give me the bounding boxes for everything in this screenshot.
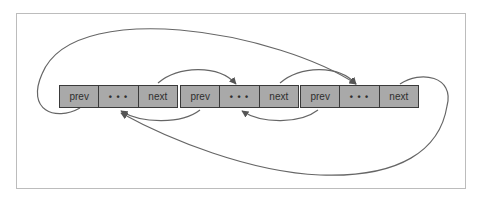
node-2: prev • • • next (180, 85, 299, 108)
node-1: prev • • • next (59, 85, 178, 108)
node-2-prev-cell: prev (181, 86, 220, 107)
node-3: prev • • • next (300, 85, 419, 108)
node-1-next-cell: next (139, 86, 177, 107)
node-1-prev-cell: prev (60, 86, 99, 107)
link-n3-prev-to-n2 (242, 110, 318, 121)
node-2-data-cell: • • • (220, 86, 259, 107)
node-3-data-cell: • • • (340, 86, 379, 107)
node-3-next-cell: next (380, 86, 418, 107)
node-2-next-cell: next (260, 86, 298, 107)
node-3-prev-cell: prev (301, 86, 340, 107)
link-n1-next-to-n2 (158, 70, 236, 84)
node-1-data-cell: • • • (99, 86, 138, 107)
